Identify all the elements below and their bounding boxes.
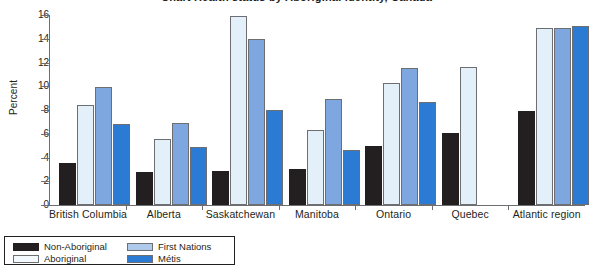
bar-group-bars xyxy=(442,15,513,205)
bar[interactable] xyxy=(572,26,589,205)
bar[interactable] xyxy=(536,28,553,205)
bar[interactable] xyxy=(518,111,535,205)
blue-swatch xyxy=(127,255,153,263)
legend-item-label: First Nations xyxy=(158,241,211,252)
bar-group xyxy=(355,15,432,205)
x-axis-group-separator xyxy=(355,205,356,210)
legend-item-label: Aboriginal xyxy=(44,253,86,264)
x-axis-category-label: British Columbia xyxy=(49,208,126,220)
x-axis-group-separator xyxy=(432,205,433,210)
bar[interactable] xyxy=(365,146,382,205)
y-axis-tick xyxy=(41,86,49,87)
bar[interactable] xyxy=(325,99,342,205)
bar[interactable] xyxy=(230,16,247,205)
bar[interactable] xyxy=(307,130,324,205)
bar[interactable] xyxy=(383,83,400,205)
y-axis-tick xyxy=(41,63,49,64)
legend-item[interactable]: Aboriginal xyxy=(13,253,86,264)
y-axis: 0246810121416 xyxy=(0,0,49,228)
bar[interactable] xyxy=(212,171,229,205)
bar-group-bars xyxy=(518,15,589,205)
y-axis-tick xyxy=(41,158,49,159)
bar[interactable] xyxy=(77,105,94,205)
x-axis-group-separator xyxy=(126,205,127,210)
bar-group-bars xyxy=(136,15,207,205)
bar-group xyxy=(49,15,126,205)
bar[interactable] xyxy=(95,87,112,205)
y-axis-tick xyxy=(41,205,49,206)
bar-group xyxy=(279,15,356,205)
bar[interactable] xyxy=(172,123,189,205)
chart-legend: Non-AboriginalAboriginalFirst NationsMét… xyxy=(4,236,235,265)
bar-group xyxy=(432,15,509,205)
bar[interactable] xyxy=(154,139,171,206)
legend-item-label: Non-Aboriginal xyxy=(44,241,107,252)
y-axis-tick xyxy=(41,181,49,182)
bar[interactable] xyxy=(460,67,477,205)
x-axis-category-label: Atlantic region xyxy=(508,208,585,220)
bar-group-bars xyxy=(289,15,360,205)
x-axis-category-label: Quebec xyxy=(432,208,509,220)
bar[interactable] xyxy=(554,28,571,205)
black-swatch xyxy=(13,243,39,251)
legend-item[interactable]: Non-Aboriginal xyxy=(13,241,107,252)
plot-area xyxy=(49,15,585,205)
y-axis-tick xyxy=(41,110,49,111)
x-axis-category-label: Ontario xyxy=(355,208,432,220)
x-axis-group-separator xyxy=(279,205,280,210)
bar[interactable] xyxy=(136,172,153,205)
light-blue-swatch xyxy=(127,243,153,251)
bar[interactable] xyxy=(248,39,265,205)
bar-group-bars xyxy=(212,15,283,205)
y-axis-tick xyxy=(41,15,49,16)
bar-group xyxy=(508,15,585,205)
bar-group xyxy=(202,15,279,205)
bar-group-bars xyxy=(59,15,130,205)
bar-group-bars xyxy=(365,15,436,205)
x-axis-spine xyxy=(49,205,585,206)
x-axis-group-separator xyxy=(508,205,509,210)
bar[interactable] xyxy=(401,68,418,205)
bar-group xyxy=(126,15,203,205)
bar[interactable] xyxy=(442,133,459,205)
bar-chart-figure: Percent 0246810121416 British ColumbiaAl… xyxy=(0,0,593,228)
legend-item-label: Métis xyxy=(158,253,181,264)
x-axis-category-label: Alberta xyxy=(126,208,203,220)
pale-blue-swatch xyxy=(13,255,39,263)
y-axis-tick xyxy=(41,39,49,40)
x-axis-category-label: Saskatchewan xyxy=(202,208,279,220)
x-axis-group-separator xyxy=(202,205,203,210)
bar[interactable] xyxy=(59,163,76,205)
y-axis-tick xyxy=(41,134,49,135)
x-axis-category-label: Manitoba xyxy=(279,208,356,220)
legend-item[interactable]: Métis xyxy=(127,253,181,264)
bar[interactable] xyxy=(289,169,306,205)
legend-item[interactable]: First Nations xyxy=(127,241,211,252)
